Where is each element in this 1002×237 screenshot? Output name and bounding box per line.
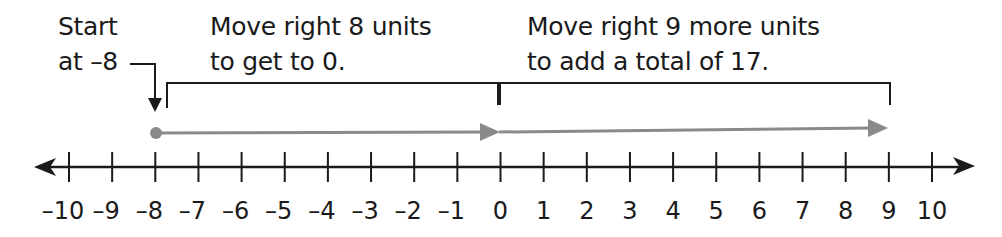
tick-label: 8 [838, 197, 853, 225]
jump-arrows [150, 119, 888, 141]
number-line-ticks [69, 152, 932, 182]
tick-label: 7 [795, 197, 810, 225]
tick-label: 2 [579, 197, 594, 225]
tick-label: 0 [493, 197, 508, 225]
tick-label: –4 [308, 197, 335, 225]
tick-label: –9 [93, 197, 120, 225]
tick-label: 1 [536, 197, 551, 225]
bracket [167, 83, 890, 108]
tick-label: 9 [881, 197, 896, 225]
tick-label: 4 [665, 197, 680, 225]
number-line-axis [34, 157, 975, 176]
tick-label: –6 [222, 197, 249, 225]
jump-arrow-2 [499, 128, 872, 132]
start-pointer-arrow [130, 64, 162, 112]
number-line-tick-labels: –10–9–8–7–6–5–4–3–2–1012345678910 [42, 197, 948, 225]
tick-label: –1 [438, 197, 465, 225]
jump-arrow-1 [156, 132, 484, 133]
tick-label: –7 [179, 197, 206, 225]
tick-label: –5 [265, 197, 292, 225]
number-line-diagram: –10–9–8–7–6–5–4–3–2–1012345678910 [0, 0, 1002, 237]
tick-label: 10 [917, 197, 948, 225]
tick-label: –8 [136, 197, 163, 225]
tick-label: 5 [709, 197, 724, 225]
tick-label: –10 [42, 197, 85, 225]
tick-label: 3 [622, 197, 637, 225]
tick-label: –3 [351, 197, 378, 225]
tick-label: –2 [395, 197, 422, 225]
tick-label: 6 [752, 197, 767, 225]
